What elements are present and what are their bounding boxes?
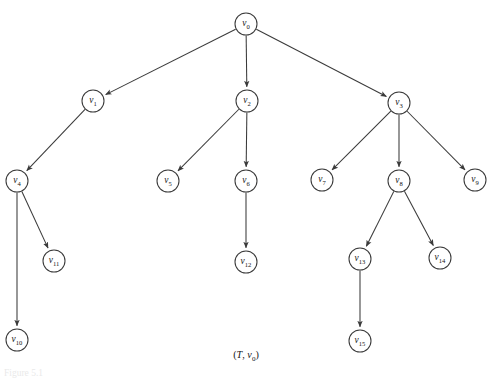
tree-node-v3[interactable]: v3 (388, 92, 410, 114)
tree-edge-v3-to-v7 (332, 111, 391, 170)
tree-edge-v0-to-v3 (256, 29, 386, 96)
tree-node-v7[interactable]: v7 (311, 169, 333, 191)
tree-edge-v0-to-v1 (106, 29, 236, 94)
tree-edge-v2-to-v5 (178, 109, 239, 171)
tree-node-v5[interactable]: v5 (157, 170, 179, 192)
tree-node-v9[interactable]: v9 (464, 169, 486, 191)
tree-node-v11[interactable]: v11 (43, 250, 65, 272)
tree-node-v6[interactable]: v6 (235, 170, 257, 192)
figure-number-label: Figure 5.1 (4, 368, 43, 378)
tree-node-v0[interactable]: v0 (235, 13, 257, 35)
tree-edge-v1-to-v4 (27, 109, 85, 170)
tree-node-v2[interactable]: v2 (236, 90, 258, 112)
tree-edge-v4-to-v11 (22, 192, 48, 249)
tree-edge-v3-to-v9 (407, 111, 465, 170)
figure-caption: (T, v0) (233, 349, 259, 363)
tree-edge-v8-to-v13 (366, 191, 393, 246)
tree-edge-v0-to-v2 (246, 36, 247, 87)
tree-node-v13[interactable]: v13 (349, 248, 371, 270)
tree-node-v1[interactable]: v1 (82, 90, 104, 112)
tree-edge-v8-to-v14 (404, 191, 433, 245)
tree-node-v14[interactable]: v14 (429, 247, 451, 269)
tree-node-v15[interactable]: v15 (349, 330, 371, 352)
tree-node-v4[interactable]: v4 (6, 170, 28, 192)
tree-node-v10[interactable]: v10 (6, 329, 28, 351)
tree-node-v8[interactable]: v8 (388, 170, 410, 192)
tree-node-v12[interactable]: v12 (235, 251, 257, 273)
tree-edge-v2-to-v6 (246, 113, 247, 167)
